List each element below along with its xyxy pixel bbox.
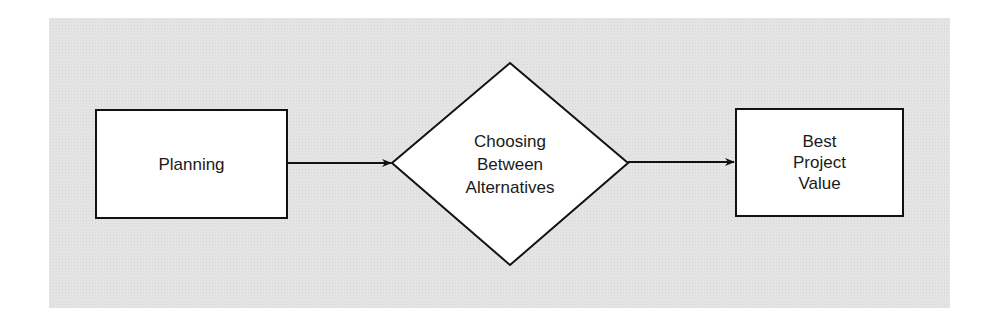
choosing-line-2: Between: [477, 153, 543, 176]
choosing-line-3: Alternatives: [466, 176, 555, 199]
planning-node: Planning: [95, 109, 288, 219]
best-line-3: Value: [798, 173, 840, 194]
planning-label: Planning: [158, 154, 224, 175]
choosing-node-label: Choosing Between Alternatives: [440, 128, 580, 200]
best-line-1: Best: [802, 131, 836, 152]
choosing-line-1: Choosing: [474, 130, 546, 153]
best-project-value-node: Best Project Value: [735, 108, 904, 217]
best-line-2: Project: [793, 152, 846, 173]
